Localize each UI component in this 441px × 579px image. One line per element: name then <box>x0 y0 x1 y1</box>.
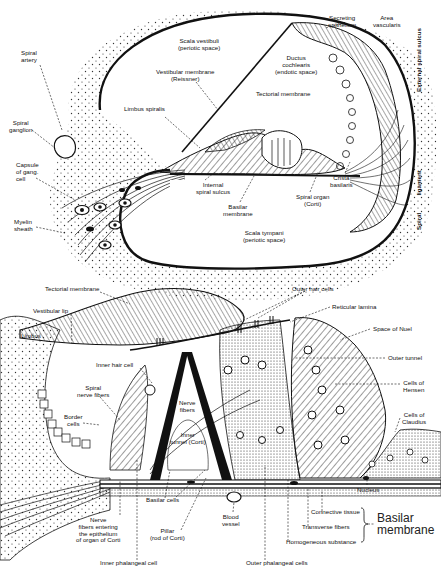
label-vestibular-membrane: Vestibular membrane (Reissner) <box>156 69 214 83</box>
label-spiral-nerve-fibers: Spiral nerve fibers <box>77 385 109 399</box>
label-limbus: Limbus <box>21 333 41 340</box>
label-homogeneous-substance: Homogeneous substance <box>286 539 356 546</box>
label-secreting-epithelium: Secreting epithelium <box>328 15 356 29</box>
spiral-ganglion-body <box>54 136 75 158</box>
label-cells-of-hensen: Cells of Hensen <box>403 380 424 394</box>
label-spiral-artery: Spiral artery <box>21 50 37 64</box>
label-cells-of-claudius: Cells of Claudius <box>402 412 426 426</box>
label-tectorial-membrane-top: Tectorial membrane <box>256 91 310 98</box>
label-reticular-lamina: Reticular lamina <box>332 304 376 311</box>
label-inner-tunnel: Inner tunnel (Corti) <box>170 432 206 446</box>
label-spiral-ganglion: Spiral ganglion <box>9 120 32 134</box>
inner-hair-cell-region <box>110 365 148 470</box>
label-scala-tympani: Scala tympani (periotic space) <box>243 230 285 244</box>
label-nerve-fibers: Nerve fibers <box>179 400 196 414</box>
label-vestibular-lip: Vestibular lip <box>33 308 68 315</box>
label-basilar-membrane-top: Basilar membrane <box>223 204 253 218</box>
label-scala-vestibuli: Scala vestibuli (periotic space) <box>178 38 220 52</box>
label-spiral-ligament: Spiral ligament <box>416 170 423 230</box>
label-pillar: Pillar (rod of Corti) <box>150 528 185 542</box>
label-external-spiral-sulcus: External spiral sulcus <box>416 28 423 92</box>
label-border-cells: Border cells <box>64 414 83 428</box>
hensen-cells-region <box>291 318 385 478</box>
label-outer-tunnel: Outer tunnel <box>388 355 422 362</box>
label-inner-hair-cell: Inner hair cell <box>96 362 133 369</box>
label-nucleus: Nucleus <box>357 487 379 494</box>
label-crista-basilaris: Crista basilaris <box>330 175 353 189</box>
label-inner-phalangeal-cell: Inner phalangeal cell <box>100 560 157 567</box>
label-myelin-sheath: Myelin sheath <box>14 219 33 233</box>
inner-hair-cell-nucleus <box>145 385 155 395</box>
label-connective-tissue: Connective tissue <box>311 509 360 516</box>
tectorial-membrane-bottom-shape <box>20 289 244 345</box>
label-blood-vessel: Blood vessel <box>222 514 240 528</box>
blood-vessel-shape <box>227 492 241 502</box>
label-nerve-fibers-entering: Nerve fibers entering the epithelium of … <box>76 517 120 544</box>
label-limbus-spiralis: Limbus spiralis <box>124 106 165 113</box>
label-internal-spiral-sulcus: Internal spiral sulcus <box>196 182 230 196</box>
label-spiral-organ: Spiral organ (Corti) <box>296 194 329 208</box>
label-tectorial-membrane-bottom: Tectorial membrane <box>45 286 99 293</box>
basilar-membrane-bracket <box>361 508 368 542</box>
label-basilar-cells: Basilar cells <box>146 497 179 504</box>
label-transverse-fibers: Transverse fibers <box>302 524 350 531</box>
label-capsule-gang-cell: Capsule of gang. cell <box>16 162 39 182</box>
connective-tissue-layer <box>100 488 441 496</box>
label-area-vascularis: Area vascularis <box>373 15 401 29</box>
top-cochlear-duct-section <box>50 10 437 300</box>
label-ductus-cochlearis: Ductus cochlearis (endotic space) <box>275 55 317 75</box>
label-basilar-membrane-bottom: Basilar membrane <box>377 512 434 536</box>
nucleus-dot <box>363 476 369 480</box>
label-outer-hair-cells: Outer hair cells <box>292 286 334 293</box>
label-outer-phalangeal-cells: Outer phalangeal cells <box>246 560 308 567</box>
label-space-of-nuel: Space of Nuel <box>373 326 412 333</box>
